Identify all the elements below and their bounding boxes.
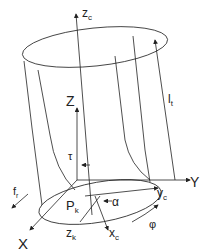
label-phi: φ (149, 218, 156, 230)
label-zc: zc (82, 6, 92, 22)
cylinder-left-edge (24, 61, 42, 205)
label-zk: zk (66, 226, 77, 242)
cylinder-inner-line-1 (38, 70, 75, 190)
label-tau: τ (68, 150, 73, 162)
label-alpha: α (112, 195, 119, 209)
label-Pk: Pk (66, 198, 80, 215)
cylinder-top-ellipse (20, 20, 169, 73)
lt-arrow (155, 40, 175, 180)
label-lt: lt (168, 92, 174, 108)
yc-axis (85, 188, 158, 196)
cylinder-right-edge (133, 36, 150, 182)
label-yc: yc (157, 186, 167, 202)
cylinder-coordinate-diagram: zc Z lt τ Y fr Pk α yc φ X zk xc (0, 0, 211, 252)
label-xc: xc (109, 226, 119, 242)
label-Y: Y (190, 174, 200, 190)
label-fr: fr (13, 185, 19, 199)
label-X: X (18, 235, 28, 252)
cylinder-bottom-ellipse (35, 172, 164, 233)
label-Z: Z (66, 93, 75, 109)
cylinder-inner-line-2 (115, 56, 150, 180)
zk-line (80, 196, 100, 222)
